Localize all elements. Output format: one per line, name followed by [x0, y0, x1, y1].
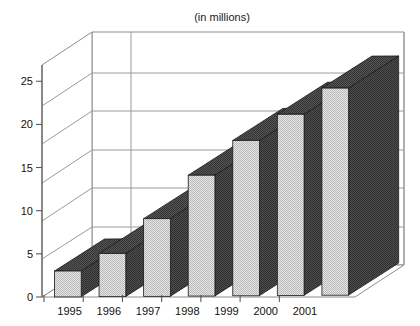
x-tick-label-1996: 1996: [97, 305, 121, 317]
x-tick-label-2001: 2001: [293, 305, 317, 317]
bar-front-face: [322, 88, 349, 295]
x-tick-label-1997: 1997: [136, 305, 160, 317]
bar-front-face: [188, 175, 215, 296]
y-tick-label-15: 15: [21, 162, 33, 174]
bar-front-face: [54, 271, 81, 297]
y-tick-label-0: 0: [27, 291, 33, 303]
chart-container: 0510152025 1995199619971998199920002001 …: [0, 0, 420, 326]
bar-front-face: [233, 140, 260, 295]
bar-side-face: [349, 56, 399, 295]
bar-front-face: [277, 114, 304, 295]
x-tick-label-2000: 2000: [253, 305, 277, 317]
bar-2001[interactable]: [322, 56, 399, 295]
chart-title: (in millions): [194, 11, 250, 23]
y-tick-label-20: 20: [21, 118, 33, 130]
x-tick-label-1998: 1998: [175, 305, 199, 317]
x-tick-label-1999: 1999: [214, 305, 238, 317]
y-tick-label-10: 10: [21, 205, 33, 217]
bar-front-face: [99, 253, 126, 296]
bar-chart-3d: 0510152025 1995199619971998199920002001 …: [0, 0, 420, 326]
y-tick-label-5: 5: [27, 248, 33, 260]
y-tick-label-25: 25: [21, 75, 33, 87]
bar-front-face: [144, 219, 171, 297]
x-tick-label-1995: 1995: [57, 305, 81, 317]
